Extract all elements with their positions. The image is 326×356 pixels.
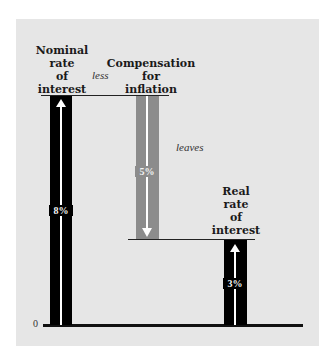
real-value-label: 3% (223, 278, 247, 289)
less-label: less (92, 69, 109, 81)
leaves-label: leaves (176, 141, 203, 153)
real-rate-label: Real rate of interest (208, 185, 264, 237)
compensation-for-inflation-label: Compensation for inflation (106, 57, 196, 96)
arrow-up-icon (230, 244, 240, 252)
arrow-down-icon (142, 228, 152, 237)
zero-tick-label: 0 (33, 318, 38, 329)
nominal-rate-label: Nominal rate of interest (30, 44, 94, 96)
compensation-value-label: 5% (135, 166, 159, 177)
compensation-arrow-shaft (146, 96, 148, 229)
nominal-value-label: 8% (49, 205, 73, 216)
arrow-up-icon (56, 99, 66, 107)
baseline-axis (43, 324, 303, 327)
